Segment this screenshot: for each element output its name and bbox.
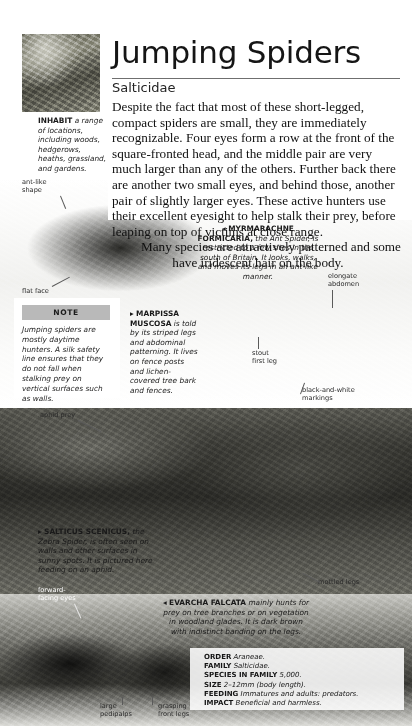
label-grasping-front-legs: grasping front legs (158, 702, 189, 718)
intro-paragraph-1: Despite the fact that most of these shor… (112, 99, 404, 239)
caption-marker-icon: ◂ (163, 598, 167, 607)
caption-marker-icon: ◂ (222, 224, 226, 233)
title-divider (112, 78, 400, 79)
data-panel-row: SPECIES IN FAMILY 5,000. (204, 671, 404, 680)
data-panel-key: FAMILY (204, 662, 231, 670)
leader-line (152, 697, 153, 705)
label-flat-face: flat face (22, 287, 49, 295)
data-panel-row: FEEDING Immatures and adults: predators. (204, 690, 404, 699)
salticus-caption: ▸ SALTICUS SCENICUS, the Zebra Spider, i… (38, 527, 160, 575)
salticus-caption-name: SALTICUS SCENICUS, (44, 527, 130, 536)
label-large-pedipalps: large pedipalps (100, 702, 132, 718)
label-ant-like-shape: ant-like shape (22, 178, 47, 194)
marpissa-caption-text: is told by its striped legs and abdomina… (130, 319, 198, 395)
label-forward-facing-eyes: forward- facing eyes (38, 586, 76, 602)
note-box-body: Jumping spiders are mostly daytime hunte… (22, 320, 110, 403)
caption-marker-icon: ▸ (38, 527, 42, 536)
data-panel-value: Immatures and adults: predators. (238, 690, 358, 698)
data-panel-value: Araneae. (231, 653, 265, 661)
field-guide-page: Jumping Spiders Salticidae Despite the f… (0, 0, 412, 726)
label-mottled-legs: mottled legs (318, 578, 359, 586)
inhabit-caption: INHABIT a range of locations, including … (38, 116, 110, 174)
data-panel-row: ORDER Araneae. (204, 653, 404, 662)
leader-line (332, 290, 333, 308)
evarcha-caption-name: EVARCHA FALCATA (169, 598, 246, 607)
label-aphid-prey: aphid prey (40, 411, 75, 419)
leader-line (258, 337, 259, 349)
note-box-header: NOTE (22, 305, 110, 320)
data-panel-row: FAMILY Salticidae. (204, 662, 404, 671)
data-panel-value: 5,000. (277, 671, 302, 679)
marpissa-caption: ▸ MARPISSA MUSCOSA is told by its stripe… (130, 309, 200, 395)
label-black-and-white-markings: black-and-white markings (302, 386, 355, 402)
data-panel-row: IMPACT Beneficial and harmless. (204, 699, 404, 708)
habitat-thumbnail-photo (22, 34, 100, 112)
data-panel-key: SPECIES IN FAMILY (204, 671, 277, 679)
myrmarachne-caption: ◂ MYRMARACHNE FORMICARIA, the Ant Spider… (196, 224, 320, 282)
family-name: Salticidae (112, 80, 176, 95)
data-panel-key: SIZE (204, 681, 222, 689)
data-panel-row: SIZE 2–12mm (body length). (204, 681, 404, 690)
species-data-panel: ORDER Araneae.FAMILY Salticidae.SPECIES … (190, 648, 404, 710)
note-box: NOTE Jumping spiders are mostly daytime … (22, 305, 110, 403)
page-title: Jumping Spiders (112, 36, 402, 69)
marpissa-caption-name: MARPISSA MUSCOSA (130, 309, 179, 328)
data-panel-value: 2–12mm (body length). (222, 681, 307, 689)
evarcha-caption: ◂ EVARCHA FALCATA mainly hunts for prey … (162, 598, 310, 636)
data-panel-key: ORDER (204, 653, 231, 661)
data-panel-key: IMPACT (204, 699, 233, 707)
data-panel-value: Beneficial and harmless. (233, 699, 321, 707)
inhabit-caption-lead: INHABIT (38, 116, 72, 125)
label-stout-first-leg: stout first leg (252, 349, 277, 365)
leader-line (122, 697, 123, 705)
data-panel-value: Salticidae. (231, 662, 270, 670)
caption-marker-icon: ▸ (130, 309, 134, 318)
label-elongate-abdomen: elongate abdomen (328, 272, 359, 288)
data-panel-key: FEEDING (204, 690, 238, 698)
